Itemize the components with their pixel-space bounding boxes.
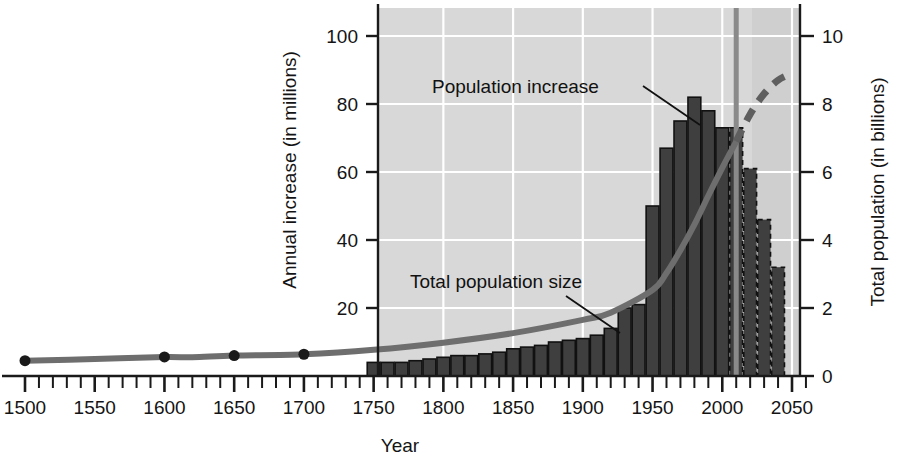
svg-text:20: 20 [337,298,358,319]
left-axis-title: Annual increase (in millions) [279,51,300,289]
bar-1830 [479,354,492,376]
svg-text:2: 2 [822,298,833,319]
bar-1890 [562,340,575,376]
svg-text:1850: 1850 [492,397,534,418]
bar-1780 [409,361,422,376]
bar-2020 [744,169,757,376]
bar-1870 [535,345,548,376]
bar-2030 [758,220,771,376]
left-axis-ticks [366,36,378,308]
x-axis-tick-labels: 1500155016001650170017501800185019001950… [4,397,813,418]
left-axis-tick-labels: 20406080100 [326,26,358,319]
bar-1900 [576,339,589,376]
bar-2040 [772,267,785,376]
svg-text:0: 0 [822,366,833,387]
bar-1850 [507,349,520,376]
svg-text:1500: 1500 [4,397,46,418]
bar-1760 [381,362,394,376]
svg-text:1900: 1900 [562,397,604,418]
bar-1810 [451,356,464,376]
bar-1920 [604,328,617,376]
chart-canvas: 20406080100 Annual increase (in millions… [0,0,900,463]
svg-text:1700: 1700 [283,397,325,418]
svg-text:40: 40 [337,230,358,251]
svg-text:100: 100 [326,26,358,47]
svg-text:1750: 1750 [352,397,394,418]
svg-text:1950: 1950 [631,397,673,418]
bar-1990 [702,111,715,376]
svg-text:80: 80 [337,94,358,115]
bar-1800 [437,357,450,376]
svg-text:6: 6 [822,162,833,183]
x-axis-ticks [25,376,806,392]
right-axis-ticks [800,36,814,376]
bar-1940 [632,305,645,376]
x-axis-title: Year [381,435,420,456]
svg-text:8: 8 [822,94,833,115]
bar-1790 [423,359,436,376]
bar-1820 [465,356,478,376]
bar-1930 [618,308,631,376]
svg-text:10: 10 [822,26,843,47]
annotation-total-population-size: Total population size [410,271,582,292]
right-axis-tick-labels: 0246810 [822,26,843,387]
svg-text:2000: 2000 [701,397,743,418]
bar-1770 [395,362,408,376]
bar-1860 [521,347,534,376]
svg-text:60: 60 [337,162,358,183]
annotation-population-increase: Population increase [432,76,599,97]
bar-1840 [493,352,506,376]
svg-text:1600: 1600 [143,397,185,418]
svg-text:4: 4 [822,230,833,251]
bar-1910 [590,335,603,376]
right-axis-title: Total population (in billions) [867,77,888,306]
population-chart: 20406080100 Annual increase (in millions… [0,0,900,463]
svg-text:1800: 1800 [422,397,464,418]
svg-text:2050: 2050 [771,397,813,418]
bar-1880 [549,342,562,376]
svg-text:1650: 1650 [213,397,255,418]
svg-text:1550: 1550 [74,397,116,418]
